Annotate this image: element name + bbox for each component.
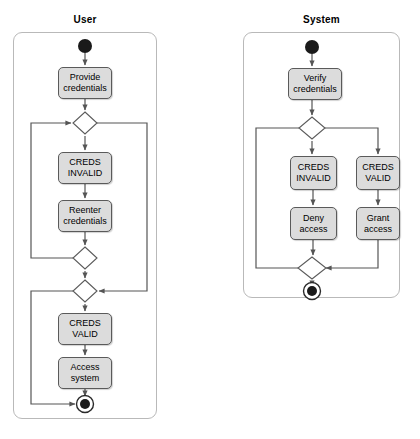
action-node-system-creds-valid[interactable]: CREDS VALID <box>356 156 400 190</box>
action-label-deny-access: Deny access <box>297 213 329 235</box>
action-label-grant-access: Grant access <box>362 213 394 235</box>
action-node-system-creds-invalid[interactable]: CREDS INVALID <box>290 156 337 190</box>
action-node-access-system[interactable]: Access system <box>58 357 112 389</box>
activity-diagram-canvas: User System <box>0 0 420 439</box>
system-lane-title: System <box>243 14 400 25</box>
action-label-system-creds-valid: CREDS VALID <box>360 162 396 184</box>
action-label-provide-credentials: Provide credentials <box>61 72 109 94</box>
action-label-verify-credentials: Verify credentials <box>291 73 339 95</box>
action-label-user-creds-valid: CREDS VALID <box>67 318 103 340</box>
action-node-deny-access[interactable]: Deny access <box>290 207 337 240</box>
action-label-system-creds-invalid: CREDS INVALID <box>294 162 332 184</box>
action-node-user-creds-valid[interactable]: CREDS VALID <box>58 313 112 345</box>
action-node-reenter-credentials[interactable]: Reenter credentials <box>58 200 112 232</box>
action-label-user-creds-invalid: CREDS INVALID <box>66 157 104 179</box>
action-node-user-creds-invalid[interactable]: CREDS INVALID <box>58 152 112 184</box>
action-node-verify-credentials[interactable]: Verify credentials <box>288 68 342 100</box>
action-node-grant-access[interactable]: Grant access <box>356 207 400 240</box>
action-node-provide-credentials[interactable]: Provide credentials <box>58 67 112 99</box>
action-label-reenter-credentials: Reenter credentials <box>61 205 109 227</box>
action-label-access-system: Access system <box>68 362 101 384</box>
user-lane-title: User <box>13 14 157 25</box>
